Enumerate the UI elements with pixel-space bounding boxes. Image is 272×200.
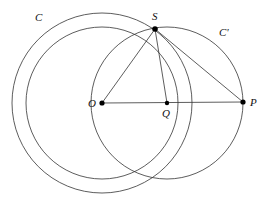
geometry-diagram: C C' O S Q P xyxy=(0,0,272,200)
point-s-dot xyxy=(152,26,158,32)
label-point-s: S xyxy=(152,11,158,22)
point-p-dot xyxy=(240,99,245,104)
segment-sq xyxy=(155,29,167,103)
label-circle-c-prime: C' xyxy=(219,27,229,38)
segment-os xyxy=(102,29,155,103)
label-point-o: O xyxy=(88,98,96,109)
diagram-canvas xyxy=(0,0,272,200)
label-point-q: Q xyxy=(162,108,170,119)
point-o-dot xyxy=(99,100,104,105)
segment-op xyxy=(102,102,243,103)
label-point-p: P xyxy=(250,97,257,108)
label-circle-c: C xyxy=(35,12,42,23)
point-q-dot xyxy=(165,101,169,105)
